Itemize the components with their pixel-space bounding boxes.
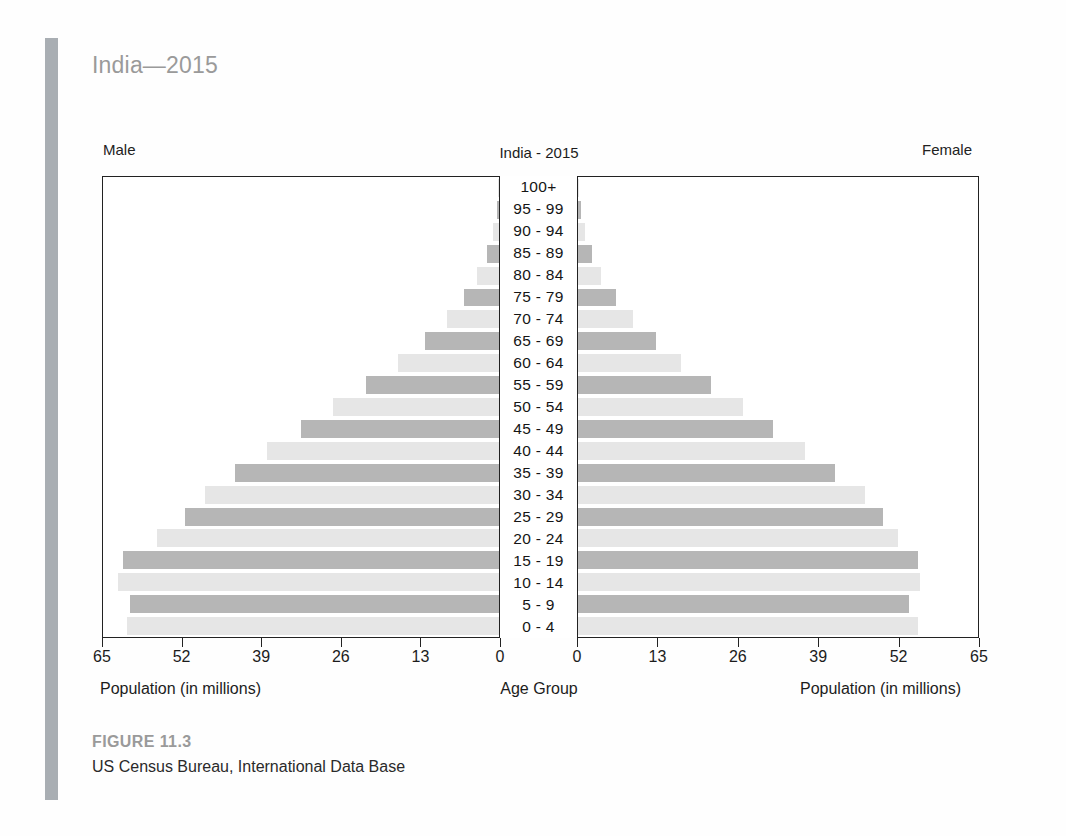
bar-row (578, 484, 978, 506)
male-bar (127, 617, 499, 635)
bar-row (578, 221, 978, 243)
age-group-label: 50 - 54 (500, 396, 577, 418)
bar-row (578, 287, 978, 309)
bar-row (103, 593, 499, 615)
male-bar (118, 573, 499, 591)
figure-number: FIGURE 11.3 (92, 733, 192, 751)
axis-tick (420, 638, 421, 647)
age-group-label: 5 - 9 (500, 594, 577, 616)
bar-row (578, 440, 978, 462)
axis-tick (577, 638, 578, 647)
age-group-label: 65 - 69 (500, 330, 577, 352)
bar-row (578, 615, 978, 637)
male-bar (464, 289, 499, 307)
male-bar (185, 508, 499, 526)
female-bar (578, 464, 835, 482)
bar-row (103, 396, 499, 418)
bar-row (103, 615, 499, 637)
male-axis-title: Population (in millions) (100, 680, 261, 698)
age-group-axis-title: Age Group (499, 680, 579, 698)
bar-row (103, 243, 499, 265)
male-bar (205, 486, 499, 504)
male-bar (398, 354, 499, 372)
axis-tick-label: 26 (729, 648, 747, 666)
male-bar (301, 420, 499, 438)
age-group-label: 90 - 94 (500, 220, 577, 242)
female-axis-title: Population (in millions) (800, 680, 961, 698)
male-bar (498, 179, 499, 197)
female-bar (578, 573, 920, 591)
bar-row (103, 308, 499, 330)
male-bar (267, 442, 499, 460)
male-bar (477, 267, 499, 285)
bar-row (103, 484, 499, 506)
bar-row (578, 177, 978, 199)
age-group-labels: 100+95 - 9990 - 9485 - 8980 - 8475 - 797… (500, 176, 577, 638)
bar-row (578, 593, 978, 615)
axis-tick (979, 638, 980, 647)
female-bar (578, 595, 909, 613)
age-group-label: 95 - 99 (500, 198, 577, 220)
axis-tick (500, 638, 501, 647)
female-x-tick-labels: 01326395265 (577, 648, 979, 672)
axis-tick (899, 638, 900, 647)
female-bar (578, 310, 633, 328)
axis-tick-label: 65 (93, 648, 111, 666)
axis-tick-label: 52 (173, 648, 191, 666)
age-group-label: 35 - 39 (500, 462, 577, 484)
female-bar (578, 267, 601, 285)
male-x-tick-labels: 65523926130 (102, 648, 500, 672)
axis-tick (261, 638, 262, 647)
bar-row (578, 571, 978, 593)
male-bar (123, 551, 500, 569)
axis-tick-label: 13 (648, 648, 666, 666)
bar-row (103, 506, 499, 528)
female-bar (578, 442, 805, 460)
bar-row (578, 549, 978, 571)
bar-row (578, 506, 978, 528)
axis-tick (657, 638, 658, 647)
bar-row (578, 352, 978, 374)
female-bar (578, 398, 743, 416)
age-group-label: 75 - 79 (500, 286, 577, 308)
bar-row (578, 199, 978, 221)
bar-row (103, 549, 499, 571)
male-bar (497, 201, 499, 219)
female-bar (578, 486, 865, 504)
age-group-label: 25 - 29 (500, 506, 577, 528)
age-group-label: 55 - 59 (500, 374, 577, 396)
bar-row (578, 265, 978, 287)
bar-row (578, 308, 978, 330)
bar-row (103, 221, 499, 243)
male-bar (366, 376, 499, 394)
male-bar (130, 595, 499, 613)
axis-tick-label: 0 (496, 648, 505, 666)
age-group-label: 30 - 34 (500, 484, 577, 506)
male-bar (493, 223, 499, 241)
population-pyramid-chart: Male Female India - 2015 100+95 - 9990 -… (0, 0, 1066, 836)
bar-row (578, 374, 978, 396)
axis-tick (738, 638, 739, 647)
bar-row (103, 440, 499, 462)
bar-row (578, 462, 978, 484)
age-group-label: 10 - 14 (500, 572, 577, 594)
bar-row (578, 418, 978, 440)
female-bar (578, 354, 681, 372)
axis-tick (818, 638, 819, 647)
axis-tick-label: 39 (252, 648, 270, 666)
axis-tick-label: 26 (332, 648, 350, 666)
female-bar (578, 289, 616, 307)
figure-page: India—2015 Male Female India - 2015 100+… (0, 0, 1066, 836)
axis-tick (341, 638, 342, 647)
female-label: Female (922, 141, 972, 158)
female-bar (578, 201, 581, 219)
male-bar (333, 398, 499, 416)
age-group-label: 80 - 84 (500, 264, 577, 286)
age-group-label: 70 - 74 (500, 308, 577, 330)
axis-tick-label: 65 (970, 648, 988, 666)
bar-row (103, 374, 499, 396)
female-bar (578, 551, 918, 569)
bar-row (103, 528, 499, 550)
bar-row (103, 352, 499, 374)
female-bar (578, 223, 585, 241)
